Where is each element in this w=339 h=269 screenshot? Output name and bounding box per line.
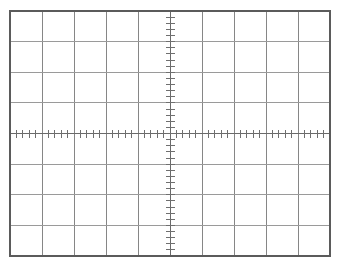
vertical-axis-tick-marks <box>166 11 175 256</box>
graticule-canvas <box>0 0 339 269</box>
oscilloscope-screen <box>0 0 339 269</box>
